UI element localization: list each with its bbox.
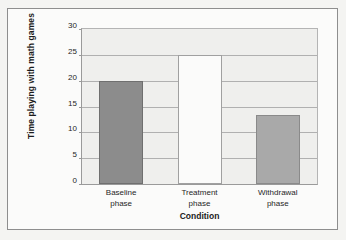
x-axis-tick-label: Treatmentphase: [160, 188, 238, 209]
x-axis-tick-label-line: phase: [82, 199, 160, 210]
y-axis-tick-label: 25: [55, 51, 77, 52]
y-axis-tick-mark: [79, 81, 82, 82]
bar: [99, 81, 143, 184]
x-axis-tick-label: Baselinephase: [82, 188, 160, 209]
y-axis-tick-mark: [79, 132, 82, 133]
y-axis-tick-label: 10: [55, 128, 77, 129]
bar: [178, 55, 222, 184]
y-axis-tick-mark: [79, 29, 82, 30]
bar: [256, 115, 300, 184]
chart-figure: Time playing with math games 05101520253…: [7, 8, 338, 230]
y-axis-tick-label: 15: [55, 103, 77, 104]
y-axis-tick-mark: [79, 184, 82, 185]
y-axis-tick-label: 20: [55, 77, 77, 78]
plot-area: 051015202530BaselinephaseTreatmentphaseW…: [81, 28, 318, 185]
y-axis-tick-label: 5: [55, 154, 77, 155]
x-axis-tick-label-line: phase: [160, 199, 238, 210]
y-axis-title: Time playing with math games: [26, 6, 36, 146]
y-axis-tick-label: 30: [55, 25, 77, 26]
y-axis-tick-mark: [79, 55, 82, 56]
y-axis-tick-mark: [79, 107, 82, 108]
x-axis-tick-label-line: phase: [239, 199, 317, 210]
x-axis-title: Condition: [81, 211, 318, 221]
x-axis-tick-label: Withdrawalphase: [239, 188, 317, 209]
x-axis-tick-label-line: Withdrawal: [239, 188, 317, 199]
y-axis-tick-label: 0: [55, 180, 77, 181]
x-axis-tick-label-line: Baseline: [82, 188, 160, 199]
x-axis-tick-label-line: Treatment: [160, 188, 238, 199]
y-axis-tick-mark: [79, 158, 82, 159]
